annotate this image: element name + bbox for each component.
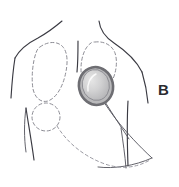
left-flank-line bbox=[25, 108, 27, 152]
sternal-midline bbox=[77, 41, 78, 72]
left-neck-shoulder-line bbox=[15, 21, 62, 58]
lesion-marker-circle bbox=[32, 103, 60, 131]
incision-arc bbox=[57, 126, 150, 167]
left-arm-outer-line bbox=[11, 58, 15, 98]
figure-panel: B bbox=[0, 0, 179, 187]
right-neck-shoulder-line bbox=[99, 21, 142, 72]
costal-arc-line bbox=[100, 96, 152, 158]
left-arm-inner-line bbox=[26, 108, 34, 160]
right-arm-outer-line bbox=[142, 72, 148, 103]
breast-outline-left bbox=[32, 43, 67, 102]
torso-diagram-svg bbox=[0, 0, 179, 187]
panel-label-b: B bbox=[158, 82, 169, 97]
